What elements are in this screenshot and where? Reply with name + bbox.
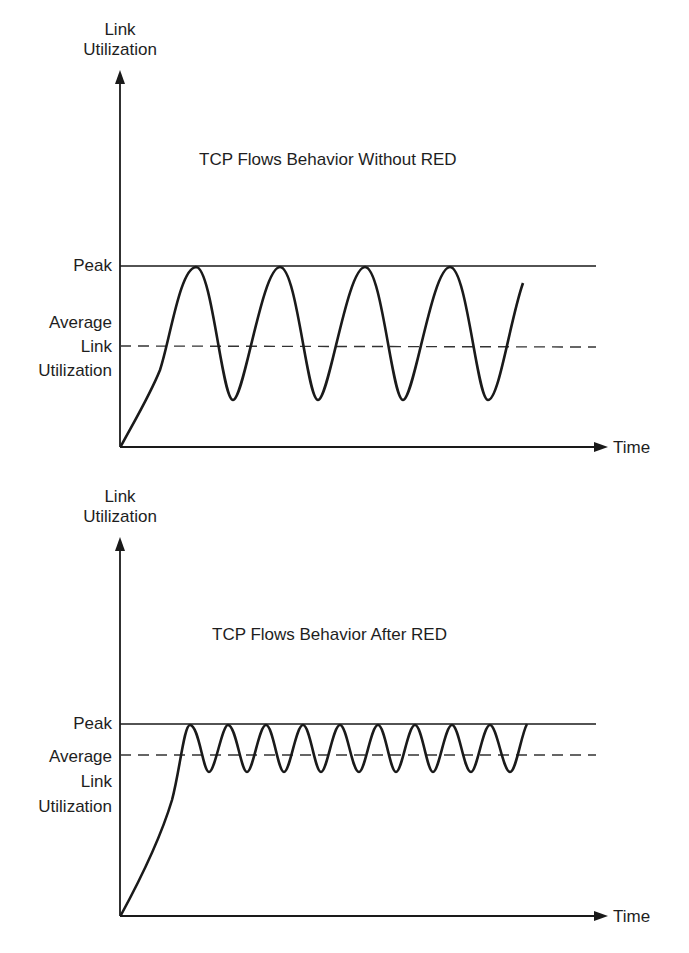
average-label-line2: Link	[0, 335, 112, 359]
x-axis-arrow-icon	[594, 911, 608, 921]
y-axis-arrow-icon	[115, 537, 125, 551]
average-label-line3: Utilization	[0, 794, 112, 819]
peak-label: Peak	[0, 256, 112, 276]
chart-without-red	[115, 70, 608, 452]
average-label-line2: Link	[0, 769, 112, 794]
average-line	[120, 346, 596, 347]
average-label-line3: Utilization	[0, 359, 112, 383]
utilization-curve	[121, 267, 523, 446]
y-axis-label-line2: Utilization	[70, 40, 170, 60]
y-axis-label-line1: Link	[70, 20, 170, 40]
average-label-line1: Average	[0, 744, 112, 769]
utilization-curve	[121, 724, 527, 915]
x-axis-arrow-icon	[594, 442, 608, 452]
chart-after-red	[115, 537, 608, 921]
x-axis-label: Time	[613, 907, 650, 927]
y-axis-label: Link Utilization	[70, 20, 170, 60]
y-axis-arrow-icon	[115, 70, 125, 84]
peak-label: Peak	[0, 714, 112, 734]
average-link-utilization-label: Average Link Utilization	[0, 311, 112, 383]
x-axis-label: Time	[613, 438, 650, 458]
average-link-utilization-label: Average Link Utilization	[0, 744, 112, 819]
average-label-line1: Average	[0, 311, 112, 335]
y-axis-label: Link Utilization	[70, 487, 170, 527]
chart-title: TCP Flows Behavior After RED	[212, 625, 447, 645]
y-axis-label-line1: Link	[70, 487, 170, 507]
chart-title: TCP Flows Behavior Without RED	[199, 150, 457, 170]
y-axis-label-line2: Utilization	[70, 507, 170, 527]
